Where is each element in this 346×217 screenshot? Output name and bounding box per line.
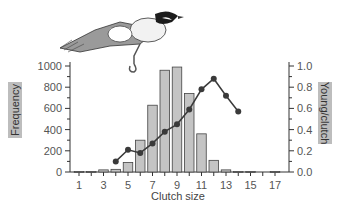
line-point — [174, 121, 180, 127]
bar — [74, 171, 84, 172]
x-tick-label: 13 — [220, 179, 232, 191]
y-tick-label: 1000 — [38, 60, 62, 72]
line-point — [113, 158, 119, 164]
line-point — [150, 140, 156, 146]
y2-tick-label: 0.2 — [297, 145, 312, 157]
bar — [111, 169, 121, 172]
line-point — [186, 106, 192, 112]
y2-axis-title: Young/clutch — [318, 82, 332, 145]
x-tick-label: 1 — [76, 179, 82, 191]
y-axis-title: Frequency — [8, 82, 22, 138]
bird-illustration — [60, 11, 184, 72]
line-point — [223, 93, 229, 99]
bar-series — [74, 67, 280, 172]
bar — [209, 160, 219, 172]
bar — [87, 171, 97, 172]
bar — [99, 170, 109, 172]
bar — [197, 134, 207, 172]
line-point — [125, 147, 131, 153]
y2-tick-label: 0.6 — [297, 102, 312, 114]
x-axis-title: Clutch size — [151, 190, 205, 202]
y-tick-label: 600 — [44, 102, 62, 114]
x-tick-label: 17 — [269, 179, 281, 191]
bar — [136, 140, 146, 172]
x-tick-label: 3 — [100, 179, 106, 191]
y-tick-label: 400 — [44, 124, 62, 136]
line-point — [199, 86, 205, 92]
chart: Frequency Young/clutch 02004006008001000… — [0, 0, 346, 217]
svg-text:Young/clutch: Young/clutch — [319, 82, 331, 145]
x-tick-label: 5 — [125, 179, 131, 191]
bar — [221, 170, 231, 172]
line-point — [137, 150, 143, 156]
y-tick-label: 200 — [44, 145, 62, 157]
x-tick-label: 15 — [244, 179, 256, 191]
y-tick-label: 800 — [44, 81, 62, 93]
bar — [160, 70, 170, 172]
bar — [246, 171, 256, 172]
bar — [123, 162, 133, 172]
line-point — [162, 129, 168, 135]
y2-tick-label: 0.4 — [297, 124, 312, 136]
line-point — [211, 76, 217, 82]
y2-tick-label: 1.0 — [297, 60, 312, 72]
svg-text:Frequency: Frequency — [9, 84, 21, 136]
bar — [234, 171, 244, 172]
bar — [148, 105, 158, 172]
y2-tick-label: 0.0 — [297, 166, 312, 178]
y2-tick-label: 0.8 — [297, 81, 312, 93]
y-tick-label: 0 — [56, 166, 62, 178]
line-point — [235, 109, 241, 115]
bar — [270, 171, 280, 172]
